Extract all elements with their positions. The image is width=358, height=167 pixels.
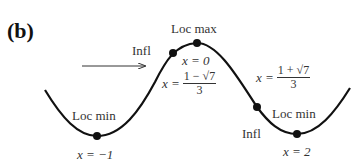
infl-right-x-label: x = 1 + √7 3 xyxy=(256,64,310,91)
infl-left-x-denominator: 3 xyxy=(196,84,202,97)
loc-min-left-x-label: x = −1 xyxy=(77,148,113,161)
infl-left-x-label: x = 1 − √7 3 xyxy=(162,70,216,97)
infl-right-x-numerator: 1 + √7 xyxy=(277,64,310,78)
diagram-figure: (b) Loc max x = 0 Infl x = 1 − √7 3 x = xyxy=(0,0,358,167)
infl-right-label: Infl xyxy=(242,127,261,140)
loc-max-label: Loc max xyxy=(171,22,217,35)
loc-min-right-dot xyxy=(293,130,301,138)
loc-min-right-x-label: x = 2 xyxy=(283,145,311,158)
infl-left-x-numerator: 1 − √7 xyxy=(183,70,216,84)
loc-min-left-label: Loc min xyxy=(72,109,116,122)
loc-max-x-label: x = 0 xyxy=(182,54,210,67)
loc-min-left-dot xyxy=(93,132,101,140)
infl-right-x-denominator: 3 xyxy=(290,78,296,91)
infl-right-dot xyxy=(253,103,261,111)
loc-max-dot xyxy=(193,39,201,47)
infl-right-x-prefix: x = xyxy=(256,71,274,84)
loc-min-right-label: Loc min xyxy=(272,107,316,120)
infl-left-label: Infl xyxy=(132,44,151,57)
infl-left-dot xyxy=(169,49,177,57)
infl-left-x-prefix: x = xyxy=(162,77,180,90)
